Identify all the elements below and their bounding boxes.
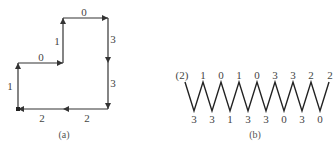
edge-label: 3 [110,34,116,45]
top-label: 0 [254,70,260,81]
top-label: 0 [218,70,224,81]
edge-label: 0 [38,52,44,63]
zigzag-line [185,82,329,111]
edge-label: 3 [110,78,116,89]
caption-a: (a) [58,130,69,140]
bottom-label: 3 [299,114,305,125]
chain-code-path [0,0,336,147]
top-label: 2 [327,70,333,81]
top-label: (2) [176,70,189,81]
edge-label: 1 [7,81,13,92]
bottom-label: 1 [227,114,233,125]
edge-label: 1 [54,36,60,47]
bottom-label: 3 [263,114,269,125]
top-label: 1 [236,70,242,81]
top-label: 3 [290,70,296,81]
bottom-label: 0 [281,114,287,125]
top-label: 3 [272,70,278,81]
edge-label: 2 [84,113,90,124]
caption-b: (b) [249,130,261,140]
bottom-label: 0 [317,114,323,125]
bottom-label: 3 [245,114,251,125]
top-label: 1 [200,70,206,81]
bottom-label: 3 [191,114,197,125]
edge-label: 2 [39,113,45,124]
bottom-label: 3 [209,114,215,125]
top-label: 2 [308,70,314,81]
edge-label: 0 [81,7,87,18]
